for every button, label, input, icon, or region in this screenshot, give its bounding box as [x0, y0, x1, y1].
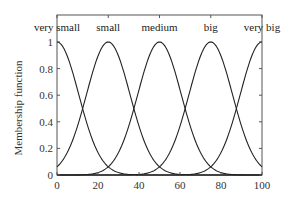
x-tick-label: 100 — [254, 179, 271, 191]
x-tick-label: 40 — [134, 179, 146, 191]
top-labels: very smallsmallmediumbigvery big — [34, 21, 281, 33]
y-tick-label: 0 — [48, 169, 54, 181]
y-tick-label: 0.8 — [39, 63, 53, 75]
curve-very-big — [57, 42, 262, 175]
curves — [57, 42, 262, 175]
x-tick-label: 0 — [54, 179, 60, 191]
membership-function-chart: 020406080100 00.20.40.60.81 very smallsm… — [0, 0, 291, 205]
label-medium: medium — [141, 21, 177, 33]
curve-medium — [57, 42, 262, 175]
y-tick-label: 0.6 — [39, 89, 53, 101]
label-very-big: very big — [244, 21, 281, 33]
y-tick-label: 0.4 — [39, 116, 53, 128]
label-big: big — [204, 21, 219, 33]
y-tick-label: 1 — [48, 36, 54, 48]
y-axis-label: Membership function — [12, 60, 24, 156]
label-very-small: very small — [34, 21, 80, 33]
y-axis: 00.20.40.60.81 — [39, 36, 262, 181]
curve-big — [57, 42, 262, 175]
x-tick-label: 80 — [216, 179, 228, 191]
x-tick-label: 60 — [175, 179, 187, 191]
curve-small — [57, 42, 262, 175]
label-small: small — [96, 21, 120, 33]
y-tick-label: 0.2 — [39, 142, 53, 154]
x-tick-label: 20 — [93, 179, 105, 191]
plot-box — [57, 15, 262, 175]
curve-very-small — [57, 42, 262, 175]
plot-frame — [57, 15, 262, 175]
